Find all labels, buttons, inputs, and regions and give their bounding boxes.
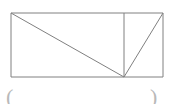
geometry-diagram — [0, 0, 170, 104]
diagram-background — [0, 0, 170, 104]
figure-container: ( ) — [0, 0, 170, 104]
